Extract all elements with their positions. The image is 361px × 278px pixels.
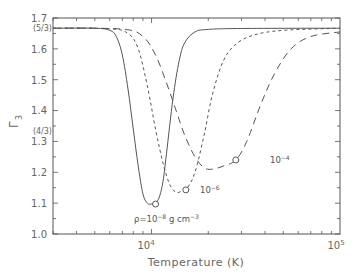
y-tick-label: 1.3 xyxy=(31,136,47,147)
y-axis-title: Γ 3 xyxy=(7,115,24,128)
y-axis-title-subscript: 3 xyxy=(15,115,24,120)
y-special-label-5-3: (5/3) xyxy=(33,24,52,33)
marker-circle-icon xyxy=(153,201,159,207)
curve-series-1 xyxy=(53,28,340,204)
y-tick-label: 1.1 xyxy=(31,198,47,209)
annotations: ρ=10−8 g cm−3 10−6 10−4 xyxy=(134,154,290,224)
y-tick-label: 1.5 xyxy=(31,75,47,86)
marker-circle-icon xyxy=(183,187,189,193)
y-axis-tick-labels: 1.0 1.1 1.2 1.3 1.4 1.5 1.6 1.7 (5/3) (4… xyxy=(31,13,52,240)
curves xyxy=(53,28,340,207)
x-axis-ticks xyxy=(53,18,331,234)
y-axis-ticks xyxy=(53,18,340,234)
y-tick-label: 1.0 xyxy=(31,229,47,240)
y-tick-label: 1.2 xyxy=(31,167,47,178)
curve-series-3 xyxy=(53,28,340,169)
x-axis-title: Temperature (K) xyxy=(147,256,244,269)
annotation-rho-1e-6: 10−6 xyxy=(200,184,220,195)
y-axis-title-gamma: Γ xyxy=(7,121,21,128)
marker-circle-icon xyxy=(233,157,239,163)
y-tick-label: 1.6 xyxy=(31,44,47,55)
gamma3-temperature-chart: 1.0 1.1 1.2 1.3 1.4 1.5 1.6 1.7 (5/3) (4… xyxy=(0,0,361,278)
plot-frame xyxy=(53,18,340,234)
curve-series-2 xyxy=(53,28,340,192)
annotation-rho-1e-4: 10−4 xyxy=(270,154,290,165)
x-tick-label-1e5: 105 xyxy=(327,239,344,251)
x-tick-label-1e4: 104 xyxy=(137,239,155,251)
annotation-rho-1e-8: ρ=10−8 g cm−3 xyxy=(134,213,199,224)
y-tick-label: 1.4 xyxy=(31,105,47,116)
x-axis-tick-labels: 104 105 xyxy=(137,239,344,251)
y-special-label-4-3: (4/3) xyxy=(33,127,52,136)
y-tick-label: 1.7 xyxy=(31,13,47,24)
